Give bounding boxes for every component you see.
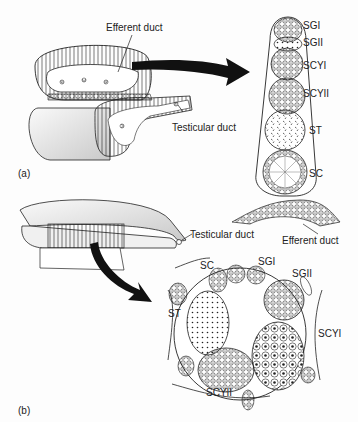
label-scyii-a: SCYII xyxy=(303,88,329,99)
label-sgi-a: SGI xyxy=(303,20,320,31)
label-sgi-b: SGI xyxy=(258,256,275,267)
label-sgii-a: SGII xyxy=(303,37,323,48)
label-sc-b: SC xyxy=(200,260,214,271)
label-testicular-duct-b: Testicular duct xyxy=(190,229,254,240)
label-efferent-duct-a: Efferent duct xyxy=(106,22,163,33)
testis-lobe-a xyxy=(29,35,192,160)
arrow-b xyxy=(90,242,152,302)
panel-label-b: (b) xyxy=(18,405,30,416)
label-sgii-b: SGII xyxy=(292,268,312,279)
label-testicular-duct-a: Testicular duct xyxy=(172,122,236,133)
label-sc-a: SC xyxy=(309,168,323,179)
label-st-b: ST xyxy=(168,308,181,319)
testis-lobe-b xyxy=(20,200,192,270)
figure: Efferent duct Testicular duct SGI SGII S… xyxy=(0,0,358,422)
lobule-cross-section xyxy=(168,258,322,410)
cyst-column xyxy=(232,17,340,234)
label-efferent-duct-bottom: Efferent duct xyxy=(282,235,339,246)
label-scyii-b: SCYII xyxy=(206,387,232,398)
label-scyi-b: SCYI xyxy=(318,328,341,339)
label-st-a: ST xyxy=(309,125,322,136)
label-scyi-a: SCYI xyxy=(303,60,326,71)
panel-label-a: (a) xyxy=(18,168,30,179)
